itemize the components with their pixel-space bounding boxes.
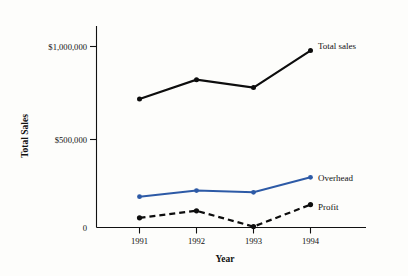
data-point [308, 175, 313, 180]
y-tick-label-500000: $500,000 [55, 135, 87, 145]
chart-canvas: $1,000,000 $500,000 0 1991 1992 1993 199… [0, 0, 408, 276]
line-chart-figure: $1,000,000 $500,000 0 1991 1992 1993 199… [0, 0, 408, 276]
series-label-profit: Profit [318, 202, 339, 212]
total-sales-markers [137, 48, 313, 101]
series-total-sales [137, 48, 313, 101]
data-point [194, 188, 199, 193]
y-tick-label-1000000: $1,000,000 [48, 42, 87, 52]
x-tick-label-1992: 1992 [188, 236, 205, 246]
data-point [251, 85, 256, 90]
profit-line [140, 205, 311, 227]
overhead-markers [137, 175, 313, 199]
series-profit [137, 202, 313, 229]
data-point [251, 224, 256, 229]
x-tick-label-1993: 1993 [245, 236, 262, 246]
data-point [137, 194, 142, 199]
data-point [251, 190, 256, 195]
series-label-total-sales: Total sales [318, 41, 357, 51]
data-point [137, 97, 142, 102]
x-tick-label-1994: 1994 [302, 236, 320, 246]
overhead-line [140, 177, 311, 196]
data-point [137, 215, 142, 220]
data-point [308, 202, 313, 207]
series-overhead [137, 175, 313, 199]
series-label-overhead: Overhead [318, 173, 353, 183]
y-axis-title: Total Sales [20, 114, 30, 158]
x-axis-title: Year [216, 254, 236, 264]
x-tick-label-1991: 1991 [131, 236, 148, 246]
data-point [308, 48, 313, 53]
y-tick-label-0: 0 [83, 223, 87, 233]
total-sales-line [140, 51, 311, 99]
data-point [194, 208, 199, 213]
data-point [194, 77, 199, 82]
